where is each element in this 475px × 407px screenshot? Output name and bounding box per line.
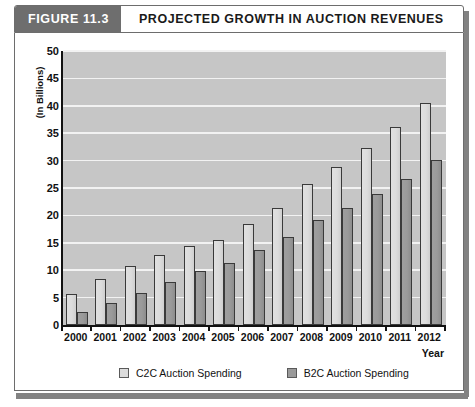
- y-axis-tick-label: 35: [47, 127, 59, 139]
- bar-c2c: [213, 240, 224, 325]
- legend-label: B2C Auction Spending: [304, 367, 409, 379]
- bar-group: [269, 51, 298, 325]
- bar-b2c: [313, 220, 324, 325]
- bar-group: [92, 51, 121, 325]
- x-axis-tick-label: 2010: [359, 331, 382, 343]
- y-axis-tick-label: 10: [47, 264, 59, 276]
- bar-c2c: [66, 294, 77, 325]
- x-axis-tick-labels: 2000200120022003200420052006200720082009…: [61, 331, 444, 347]
- x-axis-tick-label: 2002: [123, 331, 146, 343]
- y-axis-tick-label: 30: [47, 155, 59, 167]
- bar-group: [122, 51, 151, 325]
- x-axis-tick-label: 2008: [300, 331, 323, 343]
- y-axis-tick-label: 25: [47, 182, 59, 194]
- legend-label: C2C Auction Spending: [136, 367, 242, 379]
- y-axis-tick-label: 50: [47, 45, 59, 57]
- figure-right-shadow: [464, 11, 469, 397]
- x-axis-tick-label: 2004: [182, 331, 205, 343]
- bar-group: [181, 51, 210, 325]
- bar-group: [210, 51, 239, 325]
- bar-b2c: [401, 179, 412, 325]
- bar-c2c: [361, 148, 372, 325]
- x-axis-tick: [444, 325, 446, 331]
- figure-bottom-shadow: [16, 393, 468, 399]
- bar-b2c: [254, 250, 265, 325]
- bar-group: [240, 51, 269, 325]
- bar-b2c: [342, 208, 353, 325]
- bar-b2c: [283, 237, 294, 325]
- x-axis-title: Year: [422, 347, 444, 359]
- bar-b2c: [372, 194, 383, 325]
- bar-group: [299, 51, 328, 325]
- bars-layer: [63, 51, 446, 325]
- y-axis-tick-label: 15: [47, 237, 59, 249]
- x-axis-tick-label: 2011: [388, 331, 411, 343]
- bar-group: [358, 51, 387, 325]
- bar-group: [387, 51, 416, 325]
- bar-group: [151, 51, 180, 325]
- bar-b2c: [136, 293, 147, 325]
- y-axis-tick-labels: 05101520253035404550: [29, 51, 59, 325]
- bar-c2c: [95, 279, 106, 325]
- figure-body: (In Billions) 05101520253035404550 20002…: [14, 33, 464, 391]
- x-axis-tick-label: 2001: [94, 331, 117, 343]
- chart: (In Billions) 05101520253035404550 20002…: [15, 33, 463, 389]
- bar-c2c: [420, 103, 431, 325]
- x-axis-tick-label: 2000: [64, 331, 87, 343]
- bar-b2c: [106, 303, 117, 325]
- x-axis-tick-label: 2006: [241, 331, 264, 343]
- bar-c2c: [390, 127, 401, 325]
- figure-title: PROJECTED GROWTH IN AUCTION REVENUES: [121, 6, 463, 32]
- figure-number-badge: FIGURE 11.3: [15, 6, 121, 32]
- figure-container: FIGURE 11.3 PROJECTED GROWTH IN AUCTION …: [0, 0, 475, 407]
- bar-group: [417, 51, 446, 325]
- legend-item: C2C Auction Spending: [119, 367, 242, 379]
- y-axis-tick-label: 20: [47, 209, 59, 221]
- bar-b2c: [224, 263, 235, 325]
- bar-c2c: [184, 246, 195, 325]
- bar-group: [328, 51, 357, 325]
- chart-legend: C2C Auction SpendingB2C Auction Spending: [15, 363, 463, 383]
- bar-group: [63, 51, 92, 325]
- bar-c2c: [154, 255, 165, 325]
- plot-area: [61, 51, 446, 327]
- bar-b2c: [195, 271, 206, 325]
- x-axis-tick-label: 2003: [152, 331, 175, 343]
- bar-b2c: [77, 312, 88, 325]
- bar-c2c: [331, 167, 342, 325]
- y-axis-tick-label: 5: [53, 292, 59, 304]
- x-axis-tick-label: 2012: [418, 331, 441, 343]
- bar-c2c: [272, 208, 283, 325]
- x-axis-tick-label: 2005: [211, 331, 234, 343]
- legend-swatch-b2c: [287, 368, 297, 378]
- y-axis-tick-label: 40: [47, 100, 59, 112]
- legend-swatch-c2c: [119, 368, 129, 378]
- y-axis-tick-label: 45: [47, 72, 59, 84]
- x-axis-tick-label: 2007: [270, 331, 293, 343]
- bar-b2c: [431, 160, 442, 325]
- y-axis-tick-label: 0: [53, 319, 59, 331]
- legend-item: B2C Auction Spending: [287, 367, 409, 379]
- figure-header: FIGURE 11.3 PROJECTED GROWTH IN AUCTION …: [14, 5, 464, 33]
- bar-c2c: [243, 224, 254, 325]
- bar-c2c: [125, 266, 136, 325]
- bar-b2c: [165, 282, 176, 325]
- x-axis-tick-label: 2009: [329, 331, 352, 343]
- bar-c2c: [302, 184, 313, 325]
